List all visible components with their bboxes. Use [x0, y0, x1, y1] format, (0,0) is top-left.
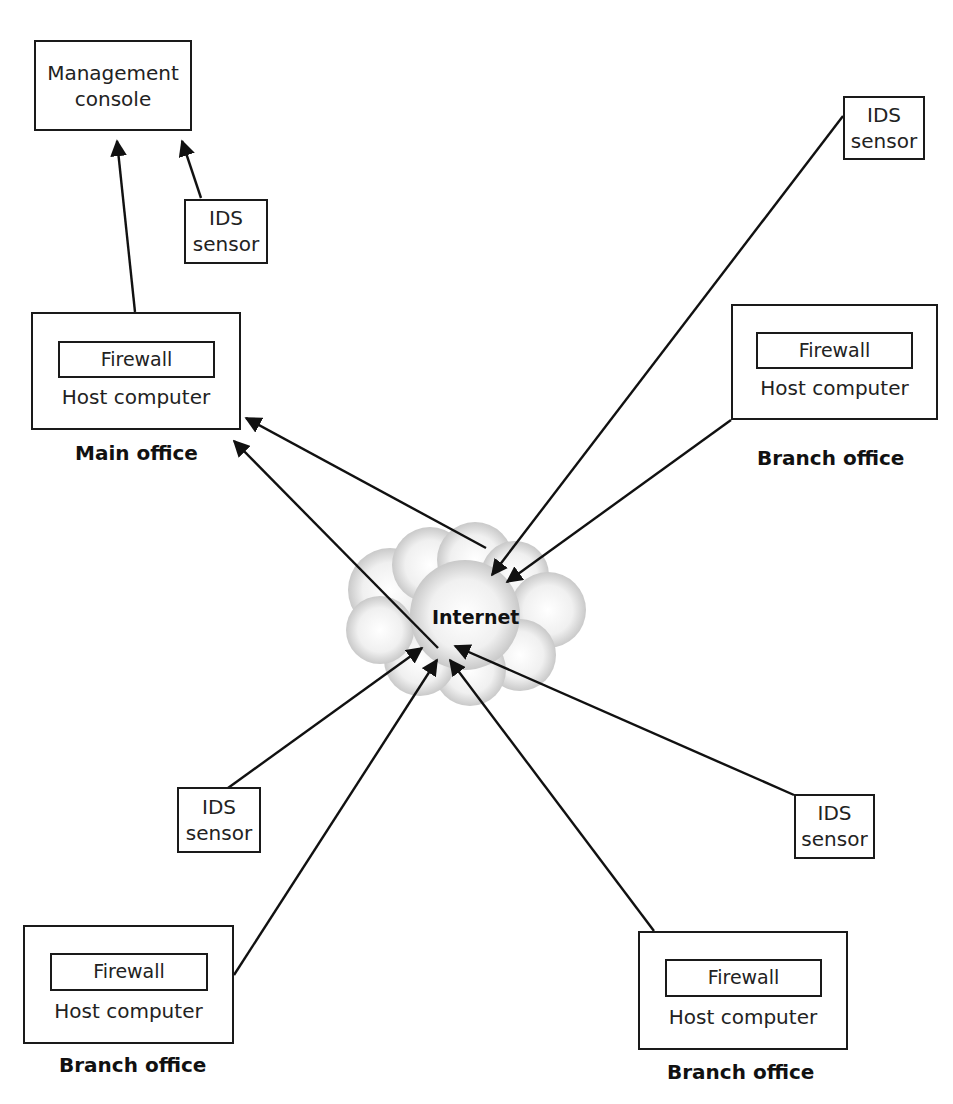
- management-console-line2: console: [36, 86, 190, 112]
- ids-sensor-bottom-left: IDS sensor: [177, 787, 261, 853]
- edge-branch-bl-to-internet: [234, 660, 437, 975]
- firewall-box: Firewall: [665, 959, 822, 997]
- branch-office-bottom-right-host: Firewall Host computer: [638, 931, 848, 1050]
- main-office-host: Firewall Host computer: [31, 312, 241, 430]
- ids-label-line1: IDS: [186, 205, 266, 231]
- host-computer-label: Host computer: [733, 376, 936, 400]
- edge-main-to-console: [117, 141, 135, 312]
- ids-label-line1: IDS: [179, 794, 259, 820]
- ids-label-line2: sensor: [179, 820, 259, 846]
- host-computer-label: Host computer: [640, 1005, 846, 1029]
- ids-label-line2: sensor: [186, 231, 266, 257]
- edge-ids-to-console: [182, 141, 201, 198]
- firewall-box: Firewall: [58, 341, 215, 378]
- firewall-box: Firewall: [756, 332, 913, 369]
- branch-office-top-right-label: Branch office: [757, 446, 904, 470]
- ids-label-line1: IDS: [796, 800, 873, 826]
- ids-label-line2: sensor: [845, 128, 923, 154]
- host-computer-label: Host computer: [33, 385, 239, 409]
- internet-label: Internet: [432, 606, 519, 628]
- firewall-box: Firewall: [50, 953, 208, 991]
- ids-sensor-top-left: IDS sensor: [184, 199, 268, 264]
- main-office-label: Main office: [75, 441, 198, 465]
- ids-sensor-top-right: IDS sensor: [843, 96, 925, 160]
- edge-branch-tr-to-internet: [507, 420, 731, 582]
- management-console-node: Management console: [34, 40, 192, 131]
- branch-office-bottom-left-label: Branch office: [59, 1053, 206, 1077]
- ids-sensor-bottom-right: IDS sensor: [794, 794, 875, 859]
- host-computer-label: Host computer: [25, 999, 232, 1023]
- branch-office-bottom-right-label: Branch office: [667, 1060, 814, 1084]
- edge-ids-br-to-internet: [455, 646, 794, 795]
- edge-internet-to-main-1: [246, 418, 486, 548]
- branch-office-top-right-host: Firewall Host computer: [731, 304, 938, 420]
- edge-branch-br-to-internet: [450, 660, 654, 931]
- management-console-line1: Management: [36, 60, 190, 86]
- branch-office-bottom-left-host: Firewall Host computer: [23, 925, 234, 1044]
- ids-label-line2: sensor: [796, 826, 873, 852]
- ids-label-line1: IDS: [845, 102, 923, 128]
- edge-ids-bl-to-internet: [228, 648, 422, 788]
